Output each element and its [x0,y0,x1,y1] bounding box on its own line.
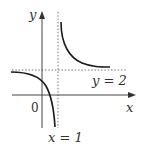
hyperbola-lower-branch [11,72,55,127]
y-axis-label: y [28,7,37,22]
vertical-asymptote-label: x = 1 [48,130,83,145]
y-axis-arrow-icon [39,11,45,19]
hyperbola-upper-branch [61,22,110,67]
x-axis-label: x [126,100,134,115]
origin-label: 0 [31,101,39,115]
horizontal-asymptote-label: y = 2 [91,73,127,88]
hyperbola-diagram: y x 0 y = 2 x = 1 [0,0,144,149]
x-axis-arrow-icon [128,92,136,98]
